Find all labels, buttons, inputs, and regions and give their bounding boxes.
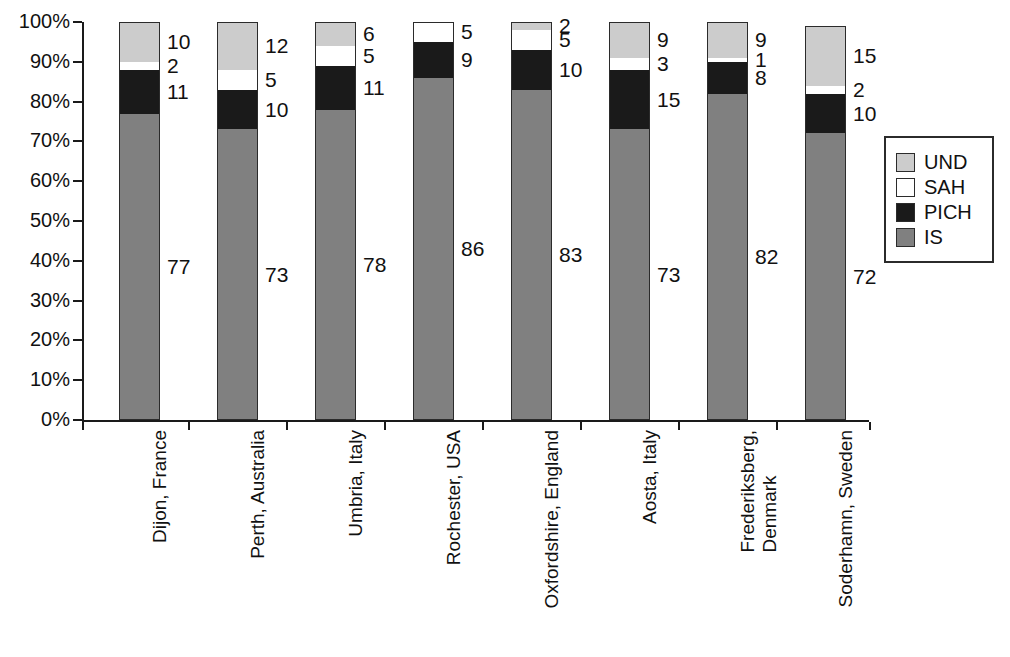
bar-segment-is[interactable] <box>217 129 258 420</box>
bar-value-label: 10 <box>167 31 190 52</box>
bar-segment-pich[interactable] <box>609 70 650 130</box>
y-axis-tick-label: 100% <box>0 11 70 31</box>
bar-value-label: 3 <box>657 53 669 74</box>
bar-segment-und[interactable] <box>511 22 552 30</box>
bar-column[interactable] <box>315 22 356 420</box>
bar-segment-sah[interactable] <box>511 30 552 50</box>
bar-column[interactable] <box>413 22 454 420</box>
x-axis-tick <box>188 422 190 430</box>
bar-segment-sah[interactable] <box>805 86 846 94</box>
x-axis-tick <box>869 422 871 430</box>
legend-label: PICH <box>924 202 972 222</box>
bar-column[interactable] <box>511 22 552 420</box>
category-label: Soderhamn, Sweden <box>835 430 857 607</box>
legend-label: IS <box>924 227 943 247</box>
bar-segment-is[interactable] <box>119 114 160 420</box>
stacked-bar-chart: 0%10%20%30%40%50%60%70%80%90%100% 102117… <box>0 0 1010 657</box>
bar-value-label: 82 <box>755 246 778 267</box>
legend-label: UND <box>924 152 967 172</box>
legend-item[interactable]: SAH <box>896 177 984 197</box>
legend-item[interactable]: IS <box>896 227 984 247</box>
y-axis-tick-label: 60% <box>0 170 70 190</box>
bar-value-label: 6 <box>363 23 375 44</box>
bar-segment-sah[interactable] <box>315 46 356 66</box>
x-axis-tick <box>678 422 680 430</box>
bar-segment-sah[interactable] <box>609 58 650 70</box>
x-axis-tick <box>286 422 288 430</box>
y-axis-tick <box>73 61 82 63</box>
category-label: Aosta, Italy <box>639 430 661 524</box>
y-axis-tick-label: 50% <box>0 210 70 230</box>
bar-value-label: 86 <box>461 238 484 259</box>
category-label-line: Frederiksberg, <box>737 430 759 553</box>
bar-segment-und[interactable] <box>119 22 160 62</box>
bar-value-label: 73 <box>657 264 680 285</box>
bar-segment-und[interactable] <box>707 22 748 58</box>
category-label: Frederiksberg,Denmark <box>737 430 781 553</box>
legend-item[interactable]: PICH <box>896 202 984 222</box>
y-axis-tick-label: 0% <box>0 409 70 429</box>
bar-value-label: 2 <box>853 79 865 100</box>
bar-value-label: 83 <box>559 244 582 265</box>
bar-value-label: 5 <box>363 45 375 66</box>
bar-segment-pich[interactable] <box>511 50 552 90</box>
category-label-line: Rochester, USA <box>443 430 465 565</box>
bar-segment-pich[interactable] <box>413 42 454 78</box>
category-label-line: Soderhamn, Sweden <box>835 430 857 607</box>
y-axis-tick-label: 80% <box>0 91 70 111</box>
x-axis-line <box>82 420 869 422</box>
x-axis-tick <box>776 422 778 430</box>
legend: UNDSAHPICHIS <box>884 136 994 263</box>
y-axis-tick <box>73 300 82 302</box>
bar-column[interactable] <box>707 22 748 420</box>
category-label-line: Aosta, Italy <box>639 430 661 524</box>
bar-value-label: 77 <box>167 256 190 277</box>
bar-column[interactable] <box>119 22 160 420</box>
bar-segment-pich[interactable] <box>707 62 748 94</box>
y-axis-tick-label: 70% <box>0 130 70 150</box>
category-label-line: Denmark <box>759 430 781 553</box>
legend-item[interactable]: UND <box>896 152 984 172</box>
y-axis-tick <box>73 260 82 262</box>
bar-value-label: 5 <box>265 69 277 90</box>
y-axis-tick-label: 20% <box>0 329 70 349</box>
bar-column[interactable] <box>609 22 650 420</box>
bar-segment-und[interactable] <box>315 22 356 46</box>
bar-segment-is[interactable] <box>707 94 748 420</box>
bar-value-label: 12 <box>265 35 288 56</box>
x-axis-tick <box>82 422 84 430</box>
y-axis-tick <box>73 180 82 182</box>
y-axis-tick <box>73 21 82 23</box>
bar-segment-pich[interactable] <box>119 70 160 114</box>
category-label-line: Dijon, France <box>149 430 171 543</box>
bar-value-label: 10 <box>559 59 582 80</box>
legend-swatch-sah <box>896 178 915 197</box>
bar-segment-pich[interactable] <box>315 66 356 110</box>
bar-value-label: 5 <box>559 29 571 50</box>
bar-segment-is[interactable] <box>511 90 552 420</box>
bar-value-label: 5 <box>461 21 473 42</box>
bar-segment-und[interactable] <box>217 22 258 70</box>
legend-swatch-pich <box>896 203 915 222</box>
bar-value-label: 72 <box>853 266 876 287</box>
bar-segment-is[interactable] <box>805 133 846 420</box>
bar-segment-sah[interactable] <box>413 22 454 42</box>
bar-segment-und[interactable] <box>609 22 650 58</box>
bar-segment-sah[interactable] <box>217 70 258 90</box>
bar-value-label: 2 <box>167 55 179 76</box>
bar-value-label: 9 <box>755 29 767 50</box>
y-axis-tick <box>73 220 82 222</box>
bar-column[interactable] <box>805 26 846 420</box>
bar-segment-is[interactable] <box>315 110 356 420</box>
bar-segment-und[interactable] <box>805 26 846 86</box>
legend-swatch-und <box>896 153 915 172</box>
bar-segment-pich[interactable] <box>217 90 258 130</box>
bar-segment-sah[interactable] <box>119 62 160 70</box>
bar-value-label: 10 <box>265 99 288 120</box>
bar-segment-is[interactable] <box>609 129 650 420</box>
bar-segment-pich[interactable] <box>805 94 846 134</box>
x-axis-tick <box>482 422 484 430</box>
bar-column[interactable] <box>217 22 258 420</box>
bar-segment-is[interactable] <box>413 78 454 420</box>
category-label-line: Perth, Australia <box>247 430 269 559</box>
